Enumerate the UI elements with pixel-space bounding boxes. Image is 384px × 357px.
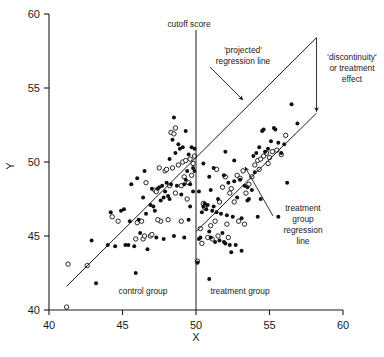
data-point-filled xyxy=(187,218,191,222)
data-point-open xyxy=(209,223,213,227)
data-point-filled xyxy=(168,197,172,201)
data-point-filled xyxy=(207,230,211,234)
y-tick-label: 55 xyxy=(28,82,40,94)
data-point-filled xyxy=(184,178,188,182)
data-point-filled xyxy=(184,129,188,133)
treatment-group-label: treatment group xyxy=(210,286,269,296)
data-point-filled xyxy=(250,188,254,192)
data-point-filled xyxy=(232,159,236,163)
data-point-open xyxy=(110,215,114,219)
data-point-open xyxy=(66,262,70,266)
y-tick-label: 40 xyxy=(28,304,40,316)
data-point-open xyxy=(232,200,236,204)
treatment-annot-line-1: treatment xyxy=(285,203,321,213)
data-point-filled xyxy=(162,237,166,241)
data-point-filled xyxy=(141,196,145,200)
projected-annot-line-1: 'projected' xyxy=(224,45,262,55)
data-point-open xyxy=(185,197,189,201)
data-point-filled xyxy=(238,178,242,182)
data-point-filled xyxy=(276,141,280,145)
data-point-open xyxy=(166,218,170,222)
data-point-open xyxy=(144,181,148,185)
x-tick-label: 50 xyxy=(190,319,202,331)
data-point-filled xyxy=(188,204,192,208)
data-point-filled xyxy=(210,209,214,213)
data-point-filled xyxy=(234,243,238,247)
data-point-filled xyxy=(182,182,186,186)
data-point-filled xyxy=(176,142,180,146)
data-point-filled xyxy=(160,184,164,188)
data-point-filled xyxy=(240,249,244,253)
data-point-open xyxy=(157,166,161,170)
x-tick-label: 60 xyxy=(337,319,349,331)
data-point-filled xyxy=(154,235,158,239)
data-point-open xyxy=(156,218,160,222)
discontinuity-annot-line-1: 'discontinuity' xyxy=(327,52,377,62)
data-point-open xyxy=(200,241,204,245)
control-group-label: control group xyxy=(119,286,168,296)
data-point-filled xyxy=(216,197,220,201)
y-tick-label: 50 xyxy=(28,156,40,168)
data-point-open xyxy=(226,235,230,239)
data-point-filled xyxy=(113,244,117,248)
data-point-filled xyxy=(191,190,195,194)
treatment-regression-annotation: treatment group regression line xyxy=(283,203,322,246)
data-point-open xyxy=(189,173,193,177)
data-point-filled xyxy=(231,215,235,219)
data-points-layer xyxy=(64,102,299,309)
data-point-filled xyxy=(285,181,289,185)
x-tick-label: 45 xyxy=(116,319,128,331)
projected-annot-line-2: regression line xyxy=(216,56,271,66)
data-point-filled xyxy=(198,235,202,239)
data-point-filled xyxy=(172,116,176,120)
projected-line-leader xyxy=(210,67,243,100)
data-point-filled xyxy=(159,198,163,202)
data-point-filled xyxy=(204,207,208,211)
data-point-filled xyxy=(170,138,174,142)
data-point-open xyxy=(134,237,138,241)
data-point-filled xyxy=(144,212,148,216)
data-point-open xyxy=(225,222,229,226)
data-point-filled xyxy=(138,231,142,235)
data-point-open xyxy=(220,185,224,189)
data-point-filled xyxy=(269,139,273,143)
data-point-filled xyxy=(232,179,236,183)
data-point-open xyxy=(150,232,154,236)
data-point-filled xyxy=(200,210,204,214)
data-point-filled xyxy=(122,207,126,211)
data-point-filled xyxy=(218,238,222,242)
data-point-filled xyxy=(173,151,177,155)
data-point-filled xyxy=(207,175,211,179)
data-point-filled xyxy=(273,127,277,131)
y-tick-label-group: 4045505560 xyxy=(28,8,40,316)
regression-lines-layer xyxy=(67,38,317,287)
data-point-open xyxy=(228,191,232,195)
data-point-filled xyxy=(220,231,224,235)
treatment-annot-line-4: line xyxy=(296,236,309,246)
data-point-filled xyxy=(223,150,227,154)
treatment-line-leader xyxy=(245,167,273,216)
x-tick-label: 55 xyxy=(263,319,275,331)
data-point-filled xyxy=(295,122,299,126)
data-point-filled xyxy=(251,154,255,158)
data-point-open xyxy=(241,169,245,173)
data-point-open xyxy=(172,132,176,136)
treatment-annot-line-3: regression xyxy=(283,225,322,235)
data-point-filled xyxy=(245,185,249,189)
data-point-filled xyxy=(226,181,230,185)
data-point-filled xyxy=(276,215,280,219)
data-point-open xyxy=(244,191,248,195)
y-tick-label: 45 xyxy=(28,230,40,242)
data-point-filled xyxy=(90,238,94,242)
data-point-filled xyxy=(290,102,294,106)
y-tick-group xyxy=(44,14,49,310)
data-point-open xyxy=(188,157,192,161)
data-point-filled xyxy=(262,127,266,131)
data-point-open xyxy=(173,126,177,130)
data-point-open xyxy=(173,191,177,195)
data-point-open xyxy=(184,158,188,162)
data-point-filled xyxy=(240,216,244,220)
data-point-open xyxy=(64,305,68,309)
data-point-filled xyxy=(209,235,213,239)
data-point-filled xyxy=(254,151,258,155)
